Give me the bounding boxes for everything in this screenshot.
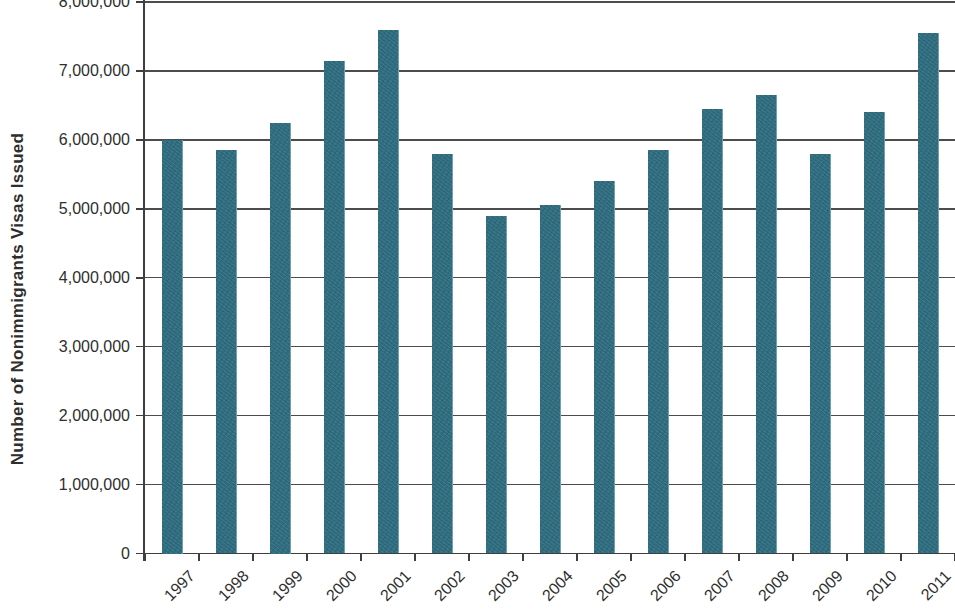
x-tick-label-1997: 1997 (144, 567, 199, 616)
y-tick (136, 346, 144, 348)
y-axis-line (143, 0, 145, 561)
x-tick (252, 554, 254, 561)
bar-2011 (918, 33, 939, 553)
x-tick (792, 554, 794, 561)
x-tick (144, 554, 146, 561)
y-tick-label: 5,000,000 (0, 199, 130, 219)
x-tick-label-2011: 2011 (900, 567, 955, 616)
bar-1999 (270, 123, 291, 554)
x-tick-label-2003: 2003 (468, 567, 523, 616)
y-tick-label: 4,000,000 (0, 268, 130, 288)
x-tick (414, 554, 416, 561)
x-tick-label-2004: 2004 (522, 567, 577, 616)
bar-2000 (324, 61, 345, 554)
x-tick-label-1999: 1999 (252, 567, 307, 616)
x-tick (306, 554, 308, 561)
bar-2003 (486, 216, 507, 554)
x-tick-label-2005: 2005 (576, 567, 631, 616)
x-tick (684, 554, 686, 561)
bar-2009 (810, 154, 831, 554)
y-tick-label: 0 (0, 544, 130, 564)
x-tick (198, 554, 200, 561)
y-tick-label: 2,000,000 (0, 406, 130, 426)
bar-2008 (756, 95, 777, 553)
y-tick (136, 484, 144, 486)
x-tick (468, 554, 470, 561)
y-tick (136, 277, 144, 279)
y-tick (136, 70, 144, 72)
x-tick-label-2009: 2009 (792, 567, 847, 616)
y-tick-label: 8,000,000 (0, 0, 130, 12)
y-tick (136, 415, 144, 417)
bar-chart: Number of Nonimmigrants Visas Issued 01,… (0, 0, 955, 616)
bar-2005 (594, 181, 615, 553)
x-tick (846, 554, 848, 561)
x-tick (522, 554, 524, 561)
y-tick (136, 139, 144, 141)
bar-2010 (864, 112, 885, 553)
gridline-6000000 (145, 139, 955, 140)
x-tick (738, 554, 740, 561)
y-tick-label: 6,000,000 (0, 130, 130, 150)
x-tick (900, 554, 902, 561)
x-tick-label-2002: 2002 (414, 567, 469, 616)
bar-2004 (540, 205, 561, 553)
x-tick-label-2006: 2006 (630, 567, 685, 616)
y-tick (136, 1, 144, 3)
y-tick-label: 1,000,000 (0, 475, 130, 495)
bar-1997 (162, 140, 183, 554)
y-tick-label: 3,000,000 (0, 337, 130, 357)
gridline-7000000 (145, 70, 955, 71)
x-tick-label-2001: 2001 (360, 567, 415, 616)
bar-2001 (378, 30, 399, 554)
x-tick-label-2008: 2008 (738, 567, 793, 616)
bar-2007 (702, 109, 723, 554)
bar-1998 (216, 150, 237, 553)
bar-2002 (432, 154, 453, 554)
y-tick-label: 7,000,000 (0, 61, 130, 81)
x-tick (630, 554, 632, 561)
x-tick-label-2010: 2010 (846, 567, 901, 616)
gridline-8000000 (145, 1, 955, 2)
bar-2006 (648, 150, 669, 553)
x-tick-label-2000: 2000 (306, 567, 361, 616)
x-tick (576, 554, 578, 561)
x-tick-label-1998: 1998 (198, 567, 253, 616)
x-tick (360, 554, 362, 561)
x-tick-label-2007: 2007 (684, 567, 739, 616)
y-tick (136, 208, 144, 210)
y-tick (136, 553, 144, 555)
